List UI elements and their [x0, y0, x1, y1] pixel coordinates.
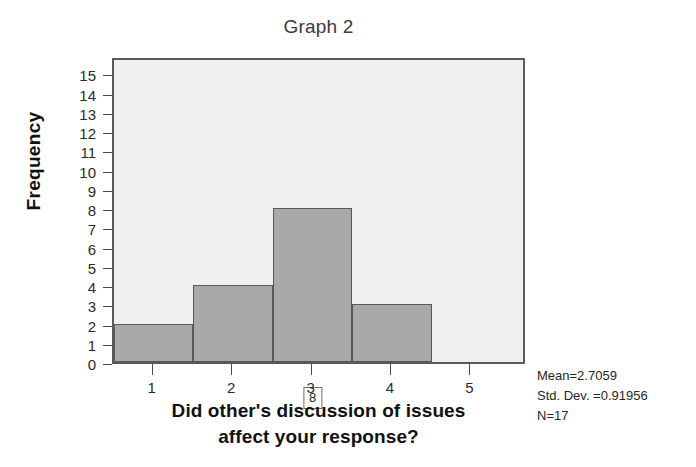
- x-axis-tick: [311, 364, 312, 375]
- y-axis-tick: [103, 133, 112, 134]
- y-axis-tick: [103, 326, 112, 327]
- y-axis-tick: [103, 345, 112, 346]
- y-axis-tick: [103, 75, 112, 76]
- statistics-annotation: Mean=2.7059 Std. Dev. =0.91956 N=17: [537, 366, 648, 426]
- y-axis-tick: [103, 152, 112, 153]
- y-axis-tick-label: 14: [68, 88, 96, 103]
- y-axis-tick-label: 11: [68, 145, 96, 160]
- y-axis-tick: [103, 306, 112, 307]
- y-axis-tick-label: 10: [68, 165, 96, 180]
- y-axis-tick-label: 7: [68, 222, 96, 237]
- bar-1: 2: [114, 324, 193, 362]
- y-axis-tick: [103, 191, 112, 192]
- plot-inner: 2483: [114, 60, 523, 362]
- plot-area: 2483: [112, 58, 525, 364]
- y-axis-tick-label: 13: [68, 107, 96, 122]
- y-axis-tick: [103, 249, 112, 250]
- chart-title: Graph 2: [112, 16, 525, 38]
- x-axis-tick-label: 4: [370, 380, 410, 395]
- y-axis-tick-label: 12: [68, 126, 96, 141]
- stat-std-dev: Std. Dev. =0.91956: [537, 386, 648, 406]
- y-axis-tick: [103, 210, 112, 211]
- y-axis-tick-label: 9: [68, 184, 96, 199]
- y-axis-tick-label: 6: [68, 242, 96, 257]
- stat-n: N=17: [537, 406, 648, 426]
- y-axis-tick: [103, 95, 112, 96]
- y-axis-tick-label: 3: [68, 299, 96, 314]
- x-axis-tick-label: 5: [449, 380, 489, 395]
- y-axis-tick-label: 15: [68, 68, 96, 83]
- y-axis-tick: [103, 268, 112, 269]
- x-axis-title: Did other's discussion of issues affect …: [96, 398, 541, 449]
- bar-2: 4: [193, 285, 272, 362]
- x-axis-tick-label: 1: [132, 380, 172, 395]
- y-axis-tick-label: 4: [68, 280, 96, 295]
- stat-mean: Mean=2.7059: [537, 366, 648, 386]
- x-axis-title-line-1: Did other's discussion of issues: [96, 398, 541, 424]
- bar-4: 3: [352, 304, 431, 362]
- x-axis-title-line-2: affect your response?: [96, 424, 541, 450]
- y-axis-tick: [103, 287, 112, 288]
- x-axis-tick-label: 3: [291, 380, 331, 395]
- y-axis-tick: [103, 172, 112, 173]
- x-axis-tick: [390, 364, 391, 375]
- y-axis-tick-label: 8: [68, 203, 96, 218]
- x-axis-tick: [469, 364, 470, 375]
- y-axis-tick-label: 0: [68, 357, 96, 372]
- y-axis-tick: [103, 364, 112, 365]
- x-axis-tick: [231, 364, 232, 375]
- y-axis-tick-label: 1: [68, 338, 96, 353]
- y-axis-tick: [103, 114, 112, 115]
- y-axis-tick-label: 2: [68, 319, 96, 334]
- histogram-figure: Graph 2 Frequency 2483 15141312111098765…: [0, 0, 696, 467]
- bar-3: 8: [273, 208, 352, 362]
- y-axis-tick: [103, 229, 112, 230]
- y-axis-title: Frequency: [23, 81, 45, 241]
- x-axis-tick: [152, 364, 153, 375]
- x-axis-tick-label: 2: [211, 380, 251, 395]
- y-axis-tick-label: 5: [68, 261, 96, 276]
